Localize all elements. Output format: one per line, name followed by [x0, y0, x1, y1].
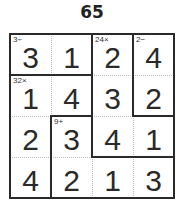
cage-border [91, 156, 134, 158]
grid-cell[interactable]: 32×1 [10, 75, 51, 116]
cell-value: 3 [51, 123, 92, 157]
kenken-grid: 3÷3124×22−432×143229+3414213 [10, 34, 174, 198]
grid-cell[interactable]: 2 [10, 116, 51, 157]
cage-border [50, 74, 93, 76]
cell-divider [133, 157, 134, 198]
grid-cell[interactable]: 2 [133, 75, 174, 116]
grid-cell[interactable]: 9+3 [51, 116, 92, 157]
cage-border [50, 115, 93, 117]
cell-value: 1 [10, 82, 51, 116]
cell-value: 2 [92, 41, 133, 75]
cell-divider [51, 157, 92, 158]
cell-divider [92, 75, 133, 76]
grid-cell[interactable]: 2 [51, 157, 92, 198]
cage-border [50, 115, 52, 158]
cell-value: 2 [133, 82, 174, 116]
cell-value: 4 [10, 164, 51, 198]
grid-cell[interactable]: 1 [92, 157, 133, 198]
cell-divider [92, 157, 93, 198]
grid-cell[interactable]: 3÷3 [10, 34, 51, 75]
grid-cell[interactable]: 3 [92, 75, 133, 116]
cage-border [91, 115, 93, 158]
cell-divider [10, 116, 51, 117]
cage-border [50, 156, 52, 199]
cell-value: 2 [10, 123, 51, 157]
cage-border [9, 197, 175, 199]
cage-border [132, 74, 134, 117]
cage-border [132, 156, 175, 158]
cage-border [132, 115, 175, 117]
cell-value: 2 [51, 164, 92, 198]
grid-cell[interactable]: 1 [51, 34, 92, 75]
cell-value: 1 [92, 164, 133, 198]
cell-divider [92, 116, 133, 117]
cell-value: 3 [133, 164, 174, 198]
cage-border [132, 33, 134, 76]
grid-cell[interactable]: 2−4 [133, 34, 174, 75]
grid-cell[interactable]: 4 [51, 75, 92, 116]
cage-border [9, 74, 52, 76]
cell-value: 3 [92, 82, 133, 116]
cage-border [91, 74, 93, 117]
cell-divider [10, 157, 51, 158]
cell-value: 1 [133, 123, 174, 157]
cell-value: 4 [51, 82, 92, 116]
cell-divider [133, 116, 134, 157]
cage-border [91, 33, 93, 76]
grid-cell[interactable]: 1 [133, 116, 174, 157]
grid-cell[interactable]: 3 [133, 157, 174, 198]
cell-value: 4 [92, 123, 133, 157]
cell-value: 4 [133, 41, 174, 75]
cell-divider [51, 34, 52, 75]
cell-divider [51, 75, 52, 116]
grid-cell[interactable]: 24×2 [92, 34, 133, 75]
cell-value: 3 [10, 41, 51, 75]
cell-value: 1 [51, 41, 92, 75]
cage-border [9, 33, 11, 199]
cell-divider [133, 75, 174, 76]
grid-cell[interactable]: 4 [10, 157, 51, 198]
grid-cell[interactable]: 4 [92, 116, 133, 157]
puzzle-number: 65 [0, 2, 184, 22]
